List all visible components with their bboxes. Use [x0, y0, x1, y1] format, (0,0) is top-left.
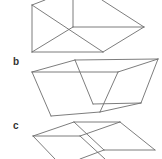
- edge-line: [93, 103, 141, 104]
- panel-label-c: c: [13, 121, 19, 131]
- edge-line: [80, 122, 120, 136]
- diagram-canvas: [0, 0, 162, 159]
- edge-line: [103, 27, 144, 52]
- figure-c-flattened-box: [33, 122, 155, 159]
- figure-b-sheared-box: [32, 59, 158, 116]
- edge-line: [100, 103, 141, 112]
- edge-line: [141, 59, 158, 103]
- figure-a-box: [32, 0, 144, 52]
- edge-line: [75, 59, 158, 60]
- edge-line: [32, 0, 45, 5]
- edge-line: [102, 0, 144, 27]
- edge-line: [32, 27, 73, 52]
- edge-line: [32, 5, 103, 52]
- edge-line: [32, 72, 51, 116]
- edge-line: [120, 122, 155, 150]
- edge-line: [75, 60, 93, 104]
- edge-line: [51, 112, 100, 116]
- edge-line: [32, 60, 75, 72]
- edge-line: [33, 122, 74, 136]
- edge-line: [100, 72, 118, 112]
- panel-label-b: b: [13, 57, 19, 67]
- edge-line: [118, 59, 158, 72]
- edge-line: [33, 136, 55, 159]
